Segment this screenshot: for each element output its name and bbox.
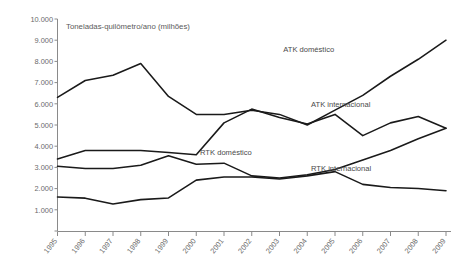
y-tick-label: 3.000 (35, 163, 54, 172)
y-tick-label: 1.000 (35, 206, 54, 215)
y-axis-tick-labels: 1.0002.0003.0004.0005.0006.0007.0008.000… (30, 15, 53, 215)
series-label: RTK internacional (311, 164, 372, 173)
y-tick-label: 7.000 (35, 78, 54, 87)
y-tick-label: 9.000 (35, 36, 54, 45)
y-tick-label: 5.000 (35, 121, 54, 130)
series-line (58, 172, 447, 204)
series-annotations: ATK domésticoATK internacionalRTK domést… (200, 45, 372, 173)
x-tick-label: 1998 (125, 237, 142, 256)
chart-title: Toneladas-quilômetro/ano (milhões) (66, 22, 190, 31)
x-tick-label: 2002 (236, 237, 253, 256)
y-tick-label: 6.000 (35, 100, 54, 109)
y-tick-label: 8.000 (35, 57, 54, 66)
series-label: ATK internacional (311, 100, 371, 109)
line-chart: 1.0002.0003.0004.0005.0006.0007.0008.000… (0, 0, 463, 271)
x-tick-label: 1996 (70, 237, 87, 256)
series-label: RTK doméstico (200, 148, 252, 157)
x-tick-label: 2007 (375, 237, 392, 256)
x-tick-label: 2006 (347, 237, 364, 256)
x-axis-tick-labels: 1995199619971998199920002001200220032004… (42, 237, 448, 256)
y-tick-label: 2.000 (35, 184, 54, 193)
x-tick-label: 1995 (42, 237, 59, 256)
x-tick-label: 1997 (97, 237, 114, 256)
x-axis-tick-marks (58, 232, 447, 237)
x-tick-label: 1999 (153, 237, 170, 256)
y-tick-label: 4.000 (35, 142, 54, 151)
series-line (58, 40, 447, 125)
x-tick-label: 2009 (430, 237, 447, 256)
x-tick-label: 2008 (403, 237, 420, 256)
x-tick-label: 2001 (208, 237, 225, 256)
y-tick-label: 10.000 (30, 15, 53, 24)
series-label: ATK doméstico (283, 45, 334, 54)
x-tick-label: 2003 (264, 237, 281, 256)
x-tick-label: 2000 (181, 237, 198, 256)
x-tick-label: 2004 (292, 237, 309, 256)
series-lines (58, 40, 447, 204)
chart-container: 1.0002.0003.0004.0005.0006.0007.0008.000… (0, 0, 463, 271)
x-tick-label: 2005 (319, 237, 336, 256)
